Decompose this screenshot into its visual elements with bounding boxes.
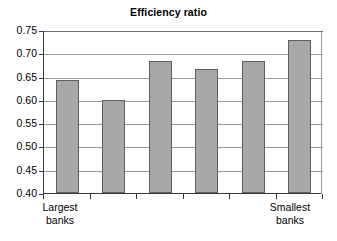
y-axis-label: 0.70 [3,48,37,59]
x-axis-tick [276,194,277,199]
y-axis-label: 0.50 [3,141,37,152]
gridline [44,171,323,172]
x-axis-tick [183,194,184,199]
chart-title: Efficiency ratio [0,6,337,19]
x-axis-tick [229,194,230,199]
x-axis-label-largest-banks: Largest banks [15,201,105,227]
bar [149,61,172,193]
gridline [44,147,323,148]
bar [102,100,125,193]
bar [56,80,79,193]
y-axis-label: 0.55 [3,118,37,129]
x-axis-tick [43,194,44,199]
y-axis-label: 0.75 [3,25,37,36]
y-axis-label: 0.60 [3,95,37,106]
gridline [44,54,323,55]
y-axis-label: 0.40 [3,188,37,199]
gridline [44,78,323,79]
efficiency-ratio-bar-chart: Efficiency ratio 0.750.700.650.600.550.5… [0,0,337,241]
bar [242,61,265,193]
plot-area [43,31,322,194]
x-axis-tick [90,194,91,199]
gridline [44,31,323,32]
x-label-largest-line2: banks [15,214,105,227]
x-axis-label-smallest-banks: Smallest banks [245,201,335,227]
bar [288,40,311,193]
x-axis-tick [136,194,137,199]
plot-right-border [321,31,322,194]
gridline [44,101,323,102]
x-label-smallest-line1: Smallest [270,201,310,213]
y-axis-label: 0.65 [3,72,37,83]
y-axis-label: 0.45 [3,165,37,176]
x-label-smallest-line2: banks [245,214,335,227]
gridline [44,124,323,125]
bar [195,69,218,193]
x-label-largest-line1: Largest [42,201,77,213]
x-axis-tick [322,194,323,199]
